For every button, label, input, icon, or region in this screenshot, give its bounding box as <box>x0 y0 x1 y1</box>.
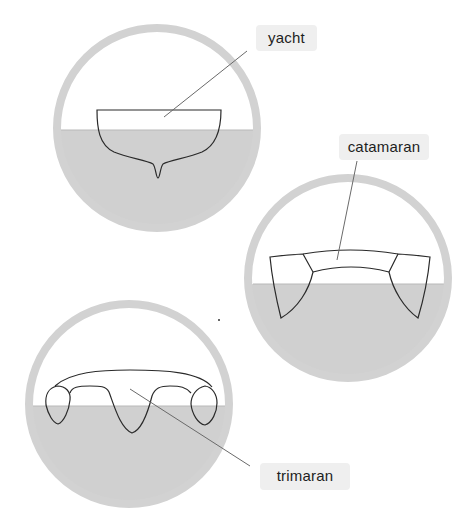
yacht-panel <box>40 28 280 250</box>
stray-mark <box>218 319 220 321</box>
catamaran-label: catamaran <box>339 134 429 160</box>
yacht-label: yacht <box>256 25 317 51</box>
boat-hull-diagram <box>0 0 471 530</box>
catamaran-panel <box>240 161 460 384</box>
trimaran-label: trimaran <box>260 463 350 490</box>
trimaran-panel <box>20 304 250 516</box>
